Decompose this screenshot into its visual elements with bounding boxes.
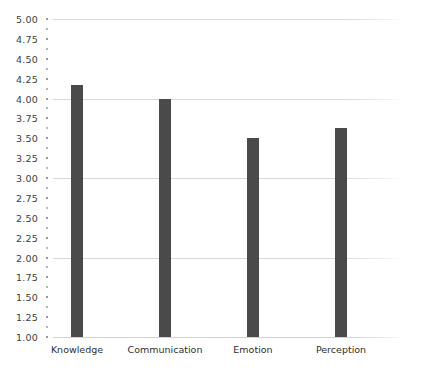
y-tick-mark-minor: [46, 147, 48, 149]
y-tick-mark: [46, 336, 48, 338]
bar: [247, 138, 259, 337]
gridline: [53, 258, 405, 259]
y-tick-mark-minor: [46, 68, 48, 70]
y-tick-label: 2.00: [16, 252, 38, 263]
gridline: [53, 19, 405, 20]
y-tick-label: 5.00: [16, 14, 38, 25]
y-tick-label: 3.25: [16, 153, 38, 164]
y-tick-mark-minor: [46, 187, 48, 189]
y-tick-mark-minor: [46, 48, 48, 50]
y-tick-mark: [46, 316, 48, 318]
y-tick-mark-minor: [46, 227, 48, 229]
x-tick-label: Perception: [316, 344, 366, 355]
y-tick-mark: [46, 58, 48, 60]
y-tick-mark: [46, 296, 48, 298]
y-tick-mark: [46, 78, 48, 80]
plot-area: [53, 19, 405, 337]
y-tick-label: 1.75: [16, 272, 38, 283]
y-tick-label: 4.50: [16, 53, 38, 64]
y-tick-mark: [46, 217, 48, 219]
gridline: [53, 178, 405, 179]
y-tick-label: 1.00: [16, 332, 38, 343]
y-tick-mark-minor: [46, 88, 48, 90]
x-tick-label: Communication: [128, 344, 203, 355]
y-tick-label: 2.75: [16, 192, 38, 203]
y-tick-mark-minor: [46, 207, 48, 209]
y-tick-mark: [46, 137, 48, 139]
y-tick-mark-minor: [46, 306, 48, 308]
y-tick-label: 3.00: [16, 173, 38, 184]
y-tick-label: 2.50: [16, 212, 38, 223]
y-tick-label: 2.25: [16, 232, 38, 243]
y-tick-mark-minor: [46, 326, 48, 328]
y-tick-mark: [46, 177, 48, 179]
x-tick-label: Emotion: [233, 344, 272, 355]
y-tick-mark: [46, 276, 48, 278]
y-tick-label: 4.25: [16, 73, 38, 84]
y-tick-mark-minor: [46, 107, 48, 109]
y-tick-label: 3.50: [16, 133, 38, 144]
y-tick-label: 1.25: [16, 312, 38, 323]
y-tick-mark-minor: [46, 28, 48, 30]
bar: [159, 99, 171, 338]
y-tick-label: 4.00: [16, 93, 38, 104]
y-tick-mark: [46, 197, 48, 199]
bar: [335, 128, 347, 337]
y-tick-mark: [46, 38, 48, 40]
y-tick-mark-minor: [46, 266, 48, 268]
y-tick-mark: [46, 117, 48, 119]
y-axis: 5.004.754.504.254.003.753.503.253.002.75…: [0, 0, 53, 369]
y-tick-mark: [46, 257, 48, 259]
y-tick-mark-minor: [46, 286, 48, 288]
y-tick-mark: [46, 157, 48, 159]
y-tick-mark: [46, 18, 48, 20]
y-tick-label: 1.50: [16, 292, 38, 303]
gridline: [53, 99, 405, 100]
y-tick-mark: [46, 98, 48, 100]
y-tick-mark: [46, 237, 48, 239]
y-tick-mark-minor: [46, 127, 48, 129]
y-tick-label: 3.75: [16, 113, 38, 124]
y-tick-mark-minor: [46, 167, 48, 169]
bar-chart: 5.004.754.504.254.003.753.503.253.002.75…: [0, 0, 421, 369]
x-tick-label: Knowledge: [51, 344, 103, 355]
x-axis: KnowledgeCommunicationEmotionPerception: [53, 337, 405, 369]
bar: [71, 85, 83, 337]
y-tick-mark-minor: [46, 247, 48, 249]
y-tick-label: 4.75: [16, 33, 38, 44]
